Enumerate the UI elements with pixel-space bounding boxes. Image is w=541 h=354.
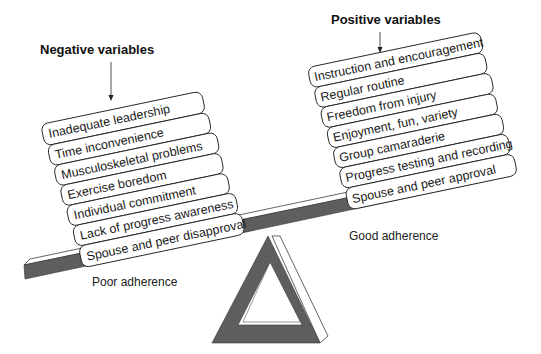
poor-adherence-label: Poor adherence xyxy=(92,275,178,289)
fulcrum-triangle xyxy=(212,236,328,343)
negative-arrow-icon xyxy=(109,62,114,101)
adherence-seesaw-diagram: Inadequate leadership Time inconvenience… xyxy=(0,0,541,354)
positive-variables-heading: Positive variables xyxy=(331,12,441,27)
negative-variables-stack: Inadequate leadership Time inconvenience… xyxy=(41,88,248,271)
good-adherence-label: Good adherence xyxy=(349,229,439,243)
negative-variables-heading: Negative variables xyxy=(40,42,154,57)
positive-arrow-icon xyxy=(378,32,383,53)
positive-variables-stack: Instruction and encouragement Regular ro… xyxy=(307,30,519,213)
